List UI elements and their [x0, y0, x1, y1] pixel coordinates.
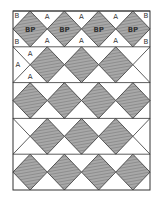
shaded-diamond — [30, 47, 64, 83]
label-b: B — [15, 38, 20, 46]
shaded-diamond — [99, 47, 133, 83]
label-a: A — [16, 61, 21, 69]
label-bp: BP — [93, 26, 103, 34]
label-bp: BP — [59, 26, 69, 34]
shaded-diamond — [116, 154, 150, 190]
quilt-rows: BPBPBPBPAAAAAABBBBAAA — [13, 11, 150, 190]
shaded-diamond — [64, 47, 98, 83]
shaded-diamond — [116, 83, 150, 119]
triangle-seam — [133, 136, 150, 154]
shaded-diamond — [64, 118, 98, 154]
quilt-row — [13, 83, 150, 119]
quilt-row — [13, 118, 150, 154]
label-a: A — [28, 50, 33, 58]
label-a: A — [45, 37, 50, 45]
label-a: A — [113, 13, 118, 21]
label-bp: BP — [25, 26, 35, 34]
label-b: B — [15, 12, 20, 20]
label-b: B — [144, 12, 149, 20]
shaded-diamond — [47, 83, 81, 119]
triangle-seam — [13, 136, 30, 154]
shaded-diamond — [47, 154, 81, 190]
triangle-seam — [133, 118, 150, 136]
quilt-row: BPBPBPBPAAAAAABBBB — [13, 11, 150, 47]
label-a: A — [113, 37, 118, 45]
triangle-seam — [133, 65, 150, 83]
shaded-diamond — [99, 118, 133, 154]
label-a: A — [45, 13, 50, 21]
triangle-seam — [133, 47, 150, 65]
label-b: B — [144, 38, 149, 46]
quilt-diagram: BPBPBPBPAAAAAABBBBAAA — [0, 0, 157, 198]
label-a: A — [28, 73, 33, 81]
shaded-diamond — [82, 83, 116, 119]
label-bp: BP — [128, 26, 138, 34]
shaded-diamond — [13, 83, 47, 119]
quilt-row: AAA — [13, 47, 150, 83]
shaded-diamond — [13, 154, 47, 190]
quilt-row — [13, 154, 150, 190]
triangle-seam — [13, 118, 30, 136]
label-a: A — [79, 13, 84, 21]
shaded-diamond — [82, 154, 116, 190]
shaded-diamond — [30, 118, 64, 154]
label-a: A — [79, 37, 84, 45]
